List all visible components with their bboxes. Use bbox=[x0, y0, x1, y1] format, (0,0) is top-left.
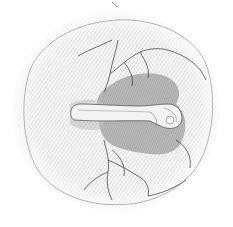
engraving-plate bbox=[0, 0, 233, 227]
top-ink-mark bbox=[112, 2, 117, 7]
embryo-illustration bbox=[0, 0, 233, 227]
